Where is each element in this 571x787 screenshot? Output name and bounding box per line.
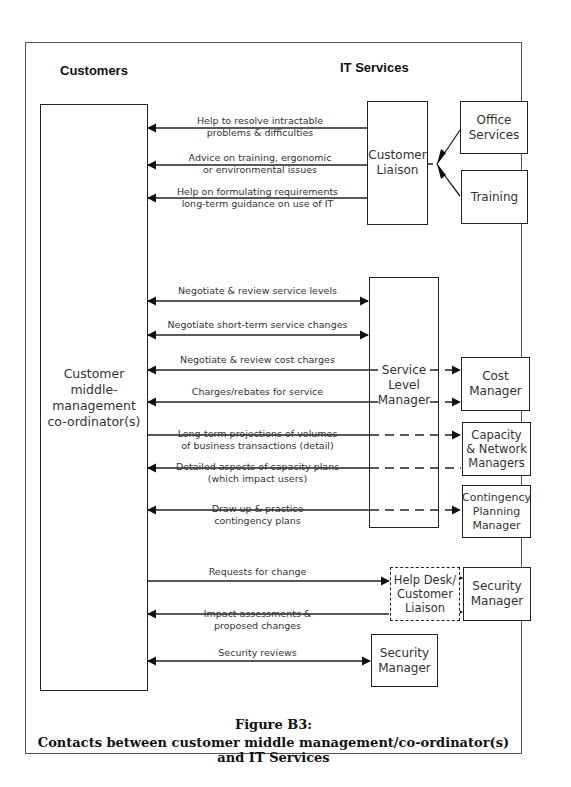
security-manager-box-bottom: Security Manager xyxy=(371,634,438,687)
cost-manager-box: Cost Manager xyxy=(461,357,530,411)
flow-label-advice-training: Advice on training, ergonomic or environ… xyxy=(155,152,365,176)
security-manager-top-label: Security Manager xyxy=(471,579,524,609)
flow-label-resolve-problems: Help to resolve intractable problems & d… xyxy=(160,115,360,139)
flow-label-formulating-requirements: Help on formulating requirements long-te… xyxy=(150,186,365,210)
capacity-network-managers-label: Capacity & Network Managers xyxy=(466,428,527,470)
customer-liaison-box: Customer Liaison xyxy=(367,101,428,225)
training-box: Training xyxy=(461,170,528,224)
flow-label-requests-for-change: Requests for change xyxy=(150,566,365,578)
flow-label-service-levels: Negotiate & review service levels xyxy=(150,285,365,297)
customer-liaison-label: Customer Liaison xyxy=(368,148,426,178)
help-desk-customer-liaison-label: Help Desk/ Customer Liaison xyxy=(394,573,456,615)
office-services-label: Office Services xyxy=(469,113,520,143)
training-label: Training xyxy=(471,190,518,205)
figure-subtitle: Contacts between customer middle managem… xyxy=(25,735,522,765)
flow-label-charges-rebates: Charges/rebates for service xyxy=(150,386,365,398)
office-services-box: Office Services xyxy=(460,101,528,154)
capacity-network-managers-box: Capacity & Network Managers xyxy=(462,422,531,476)
cost-manager-label: Cost Manager xyxy=(469,369,522,399)
help-desk-customer-liaison-box: Help Desk/ Customer Liaison xyxy=(390,567,460,621)
flow-label-security-reviews: Security reviews xyxy=(150,647,365,659)
contingency-planning-manager-label: Contingency Planning Manager xyxy=(462,491,531,533)
flow-label-long-term-projections: Long-term projections of volumes of busi… xyxy=(150,428,365,452)
service-level-manager-label: Service Level Manager xyxy=(378,363,431,408)
security-manager-box-top: Security Manager xyxy=(463,567,531,621)
flow-label-contingency-plans: Draw up & practice contingency plans xyxy=(150,503,365,527)
security-manager-bottom-label: Security Manager xyxy=(378,646,431,676)
customer-coordinator-label: Customer middle- management co-ordinator… xyxy=(47,366,140,430)
contingency-planning-manager-box: Contingency Planning Manager xyxy=(462,485,531,538)
figure-title: Figure B3: xyxy=(25,717,522,732)
flow-label-capacity-plans: Detailed aspects of capacity plans (whic… xyxy=(150,461,365,485)
flow-label-short-term-changes: Negotiate short-term service changes xyxy=(150,319,365,331)
customer-coordinator-box: Customer middle- management co-ordinator… xyxy=(40,104,148,691)
flow-label-cost-charges: Negotiate & review cost charges xyxy=(150,354,365,366)
service-level-manager-box: Service Level Manager xyxy=(369,277,439,528)
flow-label-impact-assessments: Impact assessments & proposed changes xyxy=(150,608,365,632)
